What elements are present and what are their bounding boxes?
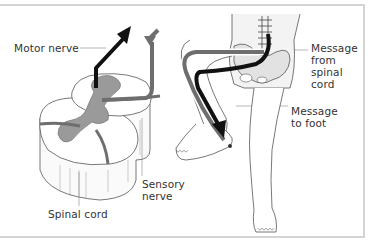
label-spinal-cord: Spinal cord — [48, 208, 108, 220]
label-message-from-spinal-cord: Message from spinal cord — [311, 42, 358, 90]
body-illustration — [176, 14, 300, 232]
label-motor-nerve: Motor nerve — [14, 42, 79, 54]
label-sensory-nerve: Sensory nerve — [142, 178, 185, 202]
label-message-to-foot: Message to foot — [291, 105, 338, 129]
